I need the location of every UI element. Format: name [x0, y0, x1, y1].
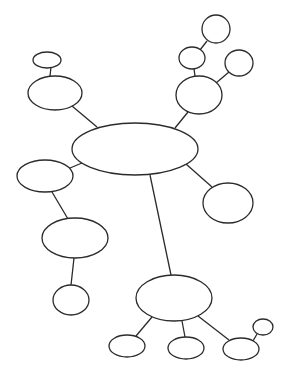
connector-bottom-hub-to-bottom-left [136, 317, 152, 336]
connector-upper-right-mid-small-to-upper-right-top [200, 41, 207, 50]
node-left-small [17, 160, 73, 192]
connector-bottom-right-to-bottom-right-tiny [253, 334, 257, 341]
node-upper-right-side [225, 50, 253, 76]
connector-center-to-upper-right-medium [175, 112, 188, 128]
node-center [72, 123, 198, 175]
bubble-nodes [17, 15, 273, 360]
node-upper-right-medium [176, 76, 222, 114]
connector-center-to-right-circle [186, 164, 212, 187]
node-upper-right-mid-small [179, 47, 205, 69]
node-upper-left-medium [28, 76, 82, 110]
connector-upper-left-medium-to-center [72, 106, 97, 127]
node-bottom-middle [168, 337, 204, 359]
connector-left-lower-medium-to-left-bottom [71, 258, 74, 285]
node-right-circle [203, 183, 253, 223]
connector-center-to-left-small [70, 163, 82, 168]
node-bottom-right-tiny [253, 319, 273, 335]
node-upper-right-top [202, 15, 230, 43]
connector-upper-right-medium-to-upper-right-side [216, 72, 229, 83]
connector-left-small-to-left-lower-medium [52, 192, 68, 219]
mind-map-diagram [0, 0, 282, 382]
node-bottom-left [109, 335, 145, 357]
node-bottom-hub [136, 275, 212, 321]
connector-upper-right-medium-to-upper-right-mid-small [194, 69, 195, 76]
node-left-bottom [53, 285, 89, 315]
connector-bottom-hub-to-bottom-right [198, 316, 229, 340]
node-upper-left-small [33, 52, 61, 68]
node-left-lower-medium [42, 218, 108, 258]
diagram-canvas [0, 0, 282, 382]
connector-center-to-bottom-hub [150, 175, 171, 275]
node-bottom-right [223, 338, 259, 360]
connector-bottom-hub-to-bottom-middle [182, 321, 185, 337]
